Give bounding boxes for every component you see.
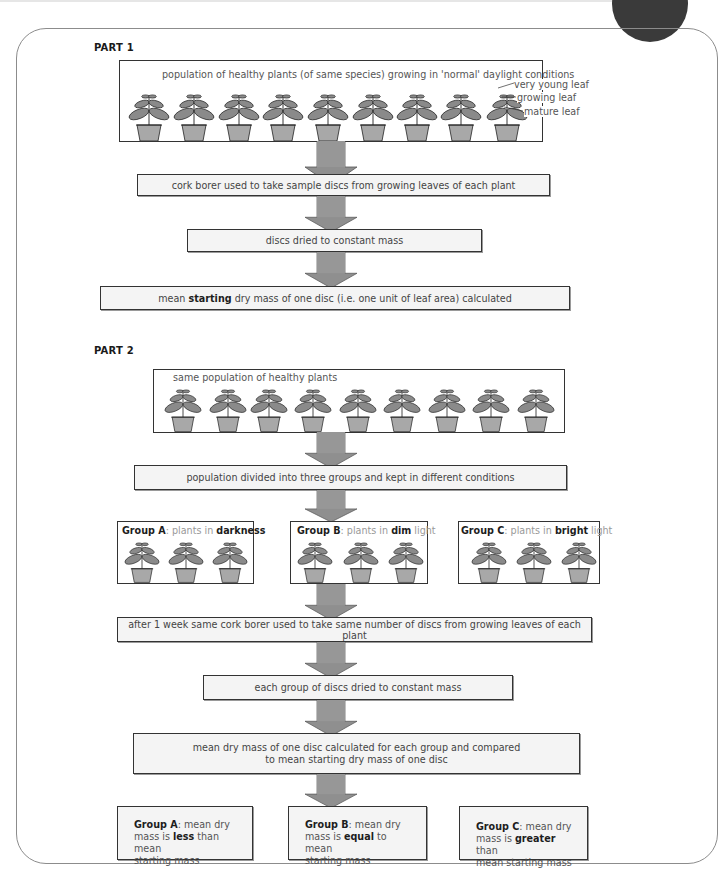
plant-icon [471,539,507,583]
plant-icon [383,386,421,432]
group-b-box: Group B: plants in dim light [290,521,428,584]
plant-icon [343,539,379,583]
leaf-label-growing: growing leaf [517,92,576,103]
flow-arrow-icon [305,490,357,522]
group-a-box: Group A: plants in darkness [117,521,254,584]
group-a-caption: Group A: plants in darkness [122,525,266,536]
part2-divide-step: population divided into three groups and… [134,465,567,490]
compare-line-1: mean dry mass of one disc calculated for… [193,742,521,754]
part2-population-box: same population of healthy plants [153,369,565,433]
plant-icon [428,386,466,432]
result-group-c: Group C: mean dry mass is greater than m… [459,806,588,860]
plant-icon [173,91,215,141]
result-group-b: Group B: mean dry mass is equal to mean … [288,806,427,860]
part1-population-caption: population of healthy plants (of same sp… [162,69,574,80]
plant-icon [209,386,247,432]
plant-icon [297,539,333,583]
part1-heading: PART 1 [94,42,134,53]
part2-population-caption: same population of healthy plants [173,372,337,383]
part2-step-after-week: after 1 week same cork borer used to tak… [117,617,592,642]
part2-compare-step: mean dry mass of one disc calculated for… [133,733,580,774]
part1-population-box: population of healthy plants (of same sp… [119,60,543,142]
plant-icon [388,539,424,583]
plant-icon [294,386,332,432]
plant-icon [168,539,204,583]
result-group-a: Group A: mean dry mass is less than mean… [117,806,253,860]
emphasis-starting: starting [189,293,232,304]
plant-icon [339,386,377,432]
emphasis-less: less [173,831,194,842]
compare-line-2: to mean starting dry mass of one disc [265,754,447,766]
flow-arrow-icon [305,642,357,678]
plant-icon [124,539,160,583]
part1-step-cork-borer: cork borer used to take sample discs fro… [137,174,550,196]
final-step-text: mean starting dry mass of one disc (i.e.… [158,293,512,304]
top-edge-line [0,0,660,2]
part2-plant-row [154,386,564,432]
emphasis-equal: equal [344,831,374,842]
emphasis-greater: greater [515,833,555,844]
plant-icon [262,91,304,141]
flow-arrow-icon [305,196,357,232]
plant-icon [164,386,202,432]
group-c-box: Group C: plants in bright light [458,521,600,584]
flow-arrow-icon [305,774,357,808]
part1-final-step: mean starting dry mass of one disc (i.e.… [100,286,570,310]
part2-heading: PART 2 [94,345,134,356]
plant-icon [440,91,482,141]
part1-step-dried: discs dried to constant mass [187,229,482,252]
flow-arrow-icon [305,700,357,736]
group-b-plants [291,539,427,583]
flow-arrow-icon [305,584,357,620]
group-c-plants [459,539,599,583]
leaf-label-very-young: very young leaf [514,79,589,90]
plant-icon [561,539,597,583]
part1-plant-row [120,91,542,141]
leaf-label-mature: mature leaf [524,106,580,117]
plant-icon [212,539,248,583]
plant-icon [218,91,260,141]
plant-icon [516,539,552,583]
plant-icon [396,91,438,141]
plant-icon [250,386,288,432]
plant-icon [352,91,394,141]
flow-arrow-icon [305,252,357,288]
group-b-caption: Group B: plants in dim light [297,525,436,536]
flow-arrow-icon [305,432,357,468]
plant-icon [128,91,170,141]
group-c-caption: Group C: plants in bright light [461,525,612,536]
plant-icon [307,91,349,141]
plant-icon [472,386,510,432]
plant-icon [517,386,555,432]
part2-step-dried: each group of discs dried to constant ma… [203,675,513,700]
group-a-plants [118,539,253,583]
